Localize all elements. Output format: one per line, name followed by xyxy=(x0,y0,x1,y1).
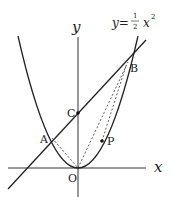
point-p-label: P xyxy=(107,135,115,148)
segment-ao xyxy=(52,138,78,168)
x-axis-label: x xyxy=(154,158,163,176)
line-ab xyxy=(8,40,146,189)
origin-label: O xyxy=(68,172,77,185)
point-b-label: B xyxy=(130,62,138,75)
point-p-dot xyxy=(100,139,104,143)
curve-equation: y= 1 2 x 2 xyxy=(111,12,155,31)
segment-ob xyxy=(78,62,128,168)
segment-bp xyxy=(102,66,126,141)
point-a-label: A xyxy=(39,133,49,146)
point-c-label: C xyxy=(67,107,75,120)
y-axis-label: y xyxy=(71,18,81,36)
equation-exp: 2 xyxy=(151,13,155,21)
equation-var: x xyxy=(143,16,150,30)
parabola-diagram: y x O A B C P y= 1 2 x 2 xyxy=(0,0,172,197)
equation-frac-den: 2 xyxy=(133,23,137,31)
equation-lhs: y= xyxy=(111,16,129,30)
point-c-dot xyxy=(76,111,80,115)
equation-frac-num: 1 xyxy=(133,12,137,20)
